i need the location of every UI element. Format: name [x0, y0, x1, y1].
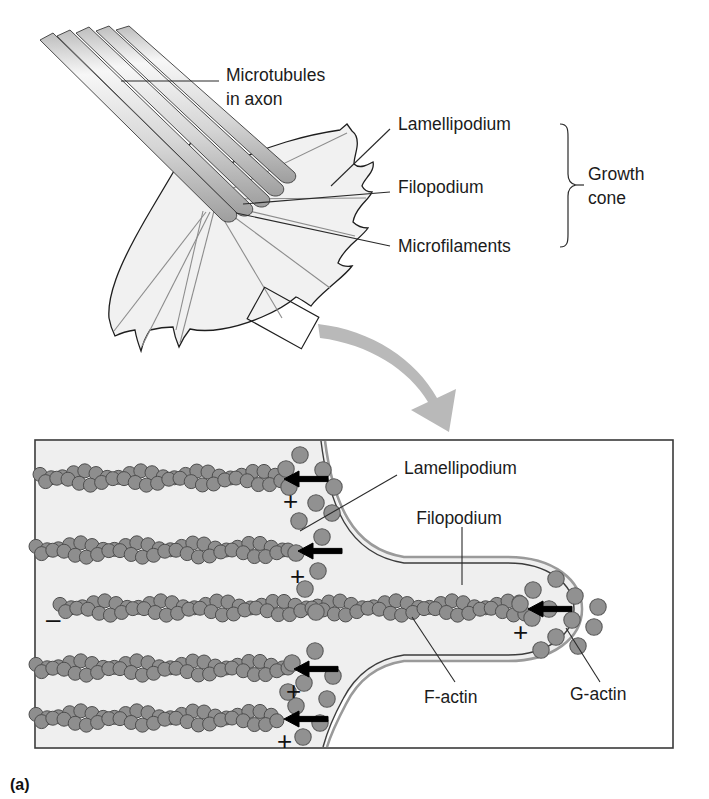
label-growth-cone-line2: cone	[588, 188, 626, 208]
g-actin-monomer	[512, 596, 528, 612]
g-actin-monomer	[295, 729, 311, 745]
g-actin-monomer	[310, 563, 326, 579]
label-g-actin: G-actin	[570, 684, 626, 704]
figure-caption: (a)	[10, 776, 30, 793]
bottom-panel: +++++– Lamellipodium Filopodium F-actin …	[29, 440, 673, 756]
label-f-actin: F-actin	[424, 687, 477, 707]
g-actin-monomer	[314, 529, 330, 545]
g-actin-monomer	[564, 612, 580, 628]
label-filopodium-bottom: Filopodium	[416, 508, 502, 528]
minus-end-marker: –	[46, 604, 61, 634]
plus-end-marker: +	[290, 561, 305, 591]
plus-end-marker: +	[286, 676, 301, 706]
g-actin-monomer	[570, 638, 586, 654]
g-actin-monomer	[533, 642, 549, 658]
g-actin-monomer	[292, 447, 308, 463]
g-actin-monomer	[319, 691, 335, 707]
label-filopodium-top: Filopodium	[398, 177, 484, 197]
figure-root: Microtubules in axon Lamellipodium Filop…	[0, 0, 709, 799]
growth-cone-brace	[560, 124, 576, 247]
top-panel: Microtubules in axon Lamellipodium Filop…	[40, 26, 644, 432]
g-actin-monomer	[525, 582, 541, 598]
g-actin-monomer	[586, 619, 602, 635]
label-microtubules-line2: in axon	[226, 89, 282, 109]
g-actin-monomer	[567, 588, 583, 604]
g-actin-monomer	[548, 629, 564, 645]
label-microtubules-line1: Microtubules	[226, 65, 325, 85]
plus-end-marker: +	[277, 726, 292, 756]
diagram-svg: Microtubules in axon Lamellipodium Filop…	[0, 0, 709, 799]
label-growth-cone-line1: Growth	[588, 164, 644, 184]
label-lamellipodium-bottom: Lamellipodium	[404, 458, 517, 478]
g-actin-monomer	[308, 604, 324, 620]
plus-end-marker: +	[283, 486, 298, 516]
curved-arrow-icon	[318, 324, 456, 432]
plus-end-marker: +	[513, 617, 528, 647]
g-actin-monomer	[590, 599, 606, 615]
label-microfilaments-top: Microfilaments	[398, 236, 511, 256]
label-lamellipodium-top: Lamellipodium	[398, 114, 511, 134]
g-actin-monomer	[548, 571, 564, 587]
g-actin-monomer	[307, 643, 323, 659]
g-actin-monomer	[308, 495, 324, 511]
g-actin-monomer	[315, 462, 331, 478]
